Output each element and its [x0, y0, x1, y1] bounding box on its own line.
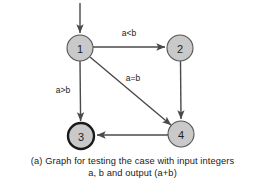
node-3-label: 3: [78, 131, 84, 143]
node-4-label: 4: [178, 129, 184, 141]
node-1[interactable]: 1: [67, 35, 93, 61]
nodes-group: 1 2 3 4: [67, 35, 194, 149]
state-graph-figure: a<b a>b a=b 1 2 3 4 (a) Graph f: [0, 0, 265, 195]
figure-caption-line-1: (a) Graph for testing the case with inpu…: [0, 155, 265, 167]
edges-group: [80, 3, 181, 135]
edge-label-a-eq-b: a=b: [126, 73, 141, 83]
edge-1-to-4: [90, 57, 171, 125]
node-2[interactable]: 2: [167, 35, 193, 61]
edge-1-to-3: [80, 61, 81, 121]
edge-labels-group: a<b a>b a=b: [56, 28, 141, 95]
node-2-label: 2: [177, 43, 183, 55]
edge-label-a-lt-b: a<b: [122, 28, 137, 38]
node-4[interactable]: 4: [168, 121, 194, 147]
edge-2-to-4: [181, 61, 182, 119]
figure-caption-line-2: a, b and output (a+b): [0, 167, 265, 179]
node-1-label: 1: [77, 43, 83, 55]
node-3[interactable]: 3: [68, 123, 94, 149]
edge-label-a-gt-b: a>b: [56, 85, 71, 95]
